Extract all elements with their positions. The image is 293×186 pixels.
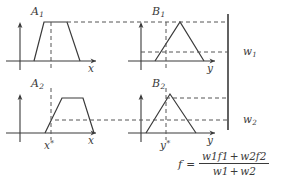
axis-label-x-bottom: x xyxy=(88,135,94,146)
label-set-b2: B2 xyxy=(152,78,165,91)
formula-denominator: w1+w2 xyxy=(210,164,259,177)
label-x-star: x* xyxy=(44,139,54,151)
panel-b2 xyxy=(128,94,215,142)
label-set-b1: B1 xyxy=(152,6,165,19)
formula-equals-sign: = xyxy=(186,158,195,170)
b2-membership-triangle xyxy=(146,94,196,133)
a2-membership-trapezoid xyxy=(45,98,94,133)
axis-label-y-bottom: y xyxy=(207,135,213,146)
formula-fraction: w1f1+w2f2 w1+w2 xyxy=(199,150,269,177)
b1-membership-triangle xyxy=(155,22,204,61)
label-weight-w1: w1 xyxy=(243,46,257,58)
label-set-a2: A2 xyxy=(31,78,44,91)
axis-label-y-top: y xyxy=(207,63,213,74)
formula-numerator: w1f1+w2f2 xyxy=(199,150,269,163)
output-formula: f = w1f1+w2f2 w1+w2 xyxy=(178,150,269,177)
label-set-a1: A1 xyxy=(31,6,44,19)
fuzzy-inference-figure: A1 B1 A2 B2 x y x y x* y* w1 w2 f = w1f1… xyxy=(0,0,293,186)
label-y-star: y* xyxy=(160,139,170,151)
axis-label-x-top: x xyxy=(88,63,94,74)
projection-lines xyxy=(51,22,228,140)
panel-b1 xyxy=(128,22,215,70)
a1-membership-trapezoid xyxy=(34,22,80,61)
formula-output-symbol: f xyxy=(178,157,182,171)
label-weight-w2: w2 xyxy=(243,114,257,126)
